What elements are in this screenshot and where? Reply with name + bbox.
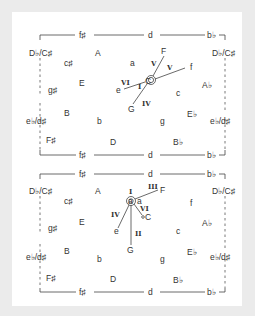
node-Bflat: B♭: [173, 137, 183, 147]
node-G: G: [128, 104, 135, 114]
frame-label-bottom-fsharp: f♯: [79, 287, 86, 297]
roman-V-f: V: [166, 63, 173, 72]
roman-VI: VI: [120, 78, 130, 87]
node-gsharp: g♯: [48, 223, 58, 233]
roman-V-F: V: [150, 59, 157, 68]
node-A: A: [95, 186, 101, 196]
node-C: C: [145, 212, 151, 222]
node-gsharp: g♯: [48, 85, 58, 95]
frame-label-top-bflat: b♭: [207, 169, 216, 179]
node-f: f: [190, 198, 193, 208]
node-Aflat: A♭: [202, 80, 212, 90]
node-B: B: [64, 108, 70, 118]
node-F: F: [161, 46, 166, 56]
frame-label-bottom-d: d: [148, 287, 153, 297]
frame-label-top-fsharp: f♯: [79, 169, 86, 179]
node-g: g: [160, 254, 165, 264]
node-a: a: [130, 58, 135, 68]
node-g: g: [160, 116, 165, 126]
frame-label-top-d: d: [148, 30, 153, 40]
node-D: D: [110, 274, 116, 284]
node-Fsharp: F♯: [46, 273, 56, 283]
tonnetz-diagram: f♯ d b♭ f♯ d b♭ D♭/C♯ e♭/d♯ D♭/C♯ e♭/d♯ …: [0, 0, 255, 316]
frame-label-top-bflat: b♭: [207, 30, 216, 40]
frame-label-bottom-fsharp: f♯: [79, 150, 86, 160]
node-e: e: [114, 226, 119, 236]
frame-label-top-fsharp: f♯: [79, 30, 86, 40]
frame-label-bottom-bflat: b♭: [207, 150, 216, 160]
roman-IV: IV: [111, 210, 120, 219]
node-csharp: c♯: [64, 196, 73, 206]
side-right-dflat: D♭/C♯: [212, 48, 236, 58]
node-Bflat: B♭: [173, 275, 183, 285]
top-panel: f♯ d b♭ f♯ d b♭ D♭/C♯ e♭/d♯ D♭/C♯ e♭/d♯ …: [26, 30, 236, 160]
node-b: b: [97, 254, 102, 264]
node-Fsharp: F♯: [46, 135, 56, 145]
side-right-eflat: e♭/d♯: [210, 116, 231, 126]
roman-I: I: [129, 187, 132, 196]
node-a-small: a: [137, 196, 142, 206]
node-f: f: [190, 62, 193, 72]
node-csharp: c♯: [64, 58, 73, 68]
center-label-C: C: [145, 76, 151, 86]
side-left-dflat: D♭/C♯: [29, 48, 53, 58]
roman-I: I: [138, 82, 141, 91]
node-F: F: [160, 185, 165, 195]
node-c: c: [176, 226, 181, 236]
center-label-a: a: [128, 196, 133, 206]
roman-IV: IV: [142, 99, 151, 108]
roman-II: II: [135, 229, 142, 238]
bottom-panel: f♯ d b♭ f♯ d b♭ D♭/C♯ e♭/d♯ D♭/C♯ e♭/d♯ …: [26, 169, 236, 297]
side-left-eflat: e♭/d♯: [26, 252, 47, 262]
roman-III: III: [148, 182, 158, 191]
frame-label-bottom-d: d: [148, 150, 153, 160]
side-right-dflat: D♭/C♯: [212, 186, 236, 196]
side-left-dflat: D♭/C♯: [29, 186, 53, 196]
node-E: E: [79, 78, 85, 88]
node-A: A: [95, 48, 101, 58]
node-Eflat: E♭: [187, 247, 197, 257]
node-c: c: [176, 88, 181, 98]
node-Aflat: A♭: [202, 218, 212, 228]
side-right-eflat: e♭/d♯: [210, 252, 231, 262]
node-D: D: [110, 137, 116, 147]
node-B: B: [64, 246, 70, 256]
frame-label-bottom-bflat: b♭: [207, 287, 216, 297]
node-G: G: [127, 245, 134, 255]
side-left-eflat: e♭/d♯: [26, 116, 47, 126]
node-b: b: [97, 116, 102, 126]
frame-label-top-d: d: [148, 169, 153, 179]
node-E: E: [79, 217, 85, 227]
node-Eflat: E♭: [187, 109, 197, 119]
